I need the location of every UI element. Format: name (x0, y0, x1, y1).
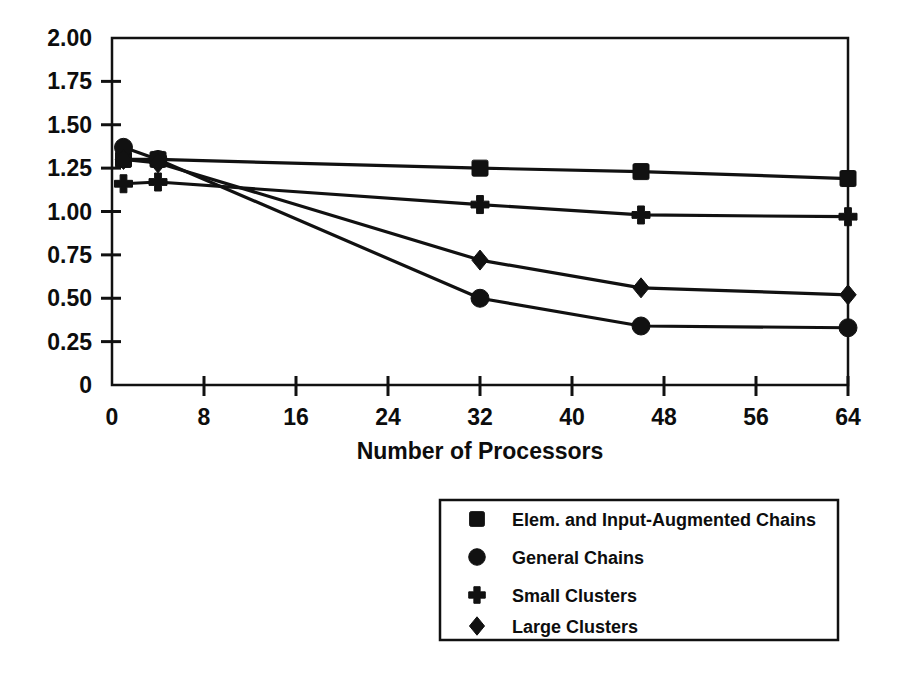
y-axis-tick-label: 1.50 (47, 112, 92, 138)
y-axis-tick-label: 2.00 (47, 25, 92, 51)
y-axis: 00.250.500.751.001.251.501.752.00 (47, 25, 121, 398)
circle-marker (469, 549, 486, 566)
data-point-marker-circle (839, 319, 857, 337)
data-point-marker-circle (632, 317, 650, 335)
data-point-marker-plus (632, 206, 650, 224)
data-point-marker-plus (149, 173, 167, 191)
y-axis-tick-label: 1.25 (47, 155, 92, 181)
series-line (124, 182, 849, 217)
data-point-marker-circle (469, 549, 486, 566)
data-point-marker-diamond (840, 285, 856, 305)
square-marker (470, 512, 485, 527)
y-axis-tick-label: 0.25 (47, 329, 92, 355)
data-point-marker-square (472, 160, 488, 176)
square-marker (633, 164, 649, 180)
plus-marker (115, 175, 133, 193)
x-axis-tick-label: 32 (467, 404, 493, 430)
x-axis-tick-label: 56 (743, 404, 769, 430)
series-0 (116, 151, 857, 186)
x-axis-title: Number of Processors (357, 438, 604, 464)
plus-marker (839, 208, 857, 226)
data-point-marker-plus (115, 175, 133, 193)
legend-item-label: Small Clusters (512, 586, 637, 606)
processor-efficiency-line-chart: 00.250.500.751.001.251.501.752.00 081624… (0, 0, 909, 698)
diamond-marker (633, 278, 649, 298)
data-point-marker-square (633, 164, 649, 180)
data-point-marker-diamond (472, 250, 488, 270)
x-axis-tick-label: 40 (559, 404, 585, 430)
plus-marker (149, 173, 167, 191)
data-point-marker-square (840, 171, 856, 187)
circle-marker (632, 317, 650, 335)
data-point-marker-plus (471, 196, 489, 214)
x-axis-tick-label: 24 (375, 404, 401, 430)
x-axis-tick-label: 48 (651, 404, 677, 430)
data-point-marker-circle (471, 289, 489, 307)
x-axis-tick-label: 64 (835, 404, 861, 430)
x-axis-tick-label: 16 (283, 404, 309, 430)
y-axis-tick-label: 0.75 (47, 242, 92, 268)
plus-marker (632, 206, 650, 224)
series-line (124, 159, 849, 294)
y-axis-tick-label: 1.75 (47, 68, 92, 94)
data-point-marker-plus (839, 208, 857, 226)
chart-figure: 00.250.500.751.001.251.501.752.00 081624… (0, 0, 909, 698)
x-axis-tick-label: 0 (106, 404, 119, 430)
data-point-marker-square (470, 512, 485, 527)
legend-item-label: Large Clusters (512, 617, 638, 637)
diamond-marker (840, 285, 856, 305)
y-axis-tick-label: 1.00 (47, 199, 92, 225)
plus-marker (471, 196, 489, 214)
square-marker (840, 171, 856, 187)
legend: Elem. and Input-Augmented ChainsGeneral … (440, 500, 838, 640)
square-marker (472, 160, 488, 176)
legend-item: Elem. and Input-Augmented Chains (470, 510, 816, 530)
legend-item-label: Elem. and Input-Augmented Chains (512, 510, 816, 530)
circle-marker (839, 319, 857, 337)
y-axis-tick-label: 0 (79, 372, 92, 398)
diamond-marker (472, 250, 488, 270)
circle-marker (471, 289, 489, 307)
y-axis-tick-label: 0.50 (47, 285, 92, 311)
series-2 (115, 173, 858, 226)
x-axis-tick-label: 8 (198, 404, 211, 430)
data-series-group (115, 138, 858, 336)
legend-item-label: General Chains (512, 548, 644, 568)
data-point-marker-diamond (633, 278, 649, 298)
